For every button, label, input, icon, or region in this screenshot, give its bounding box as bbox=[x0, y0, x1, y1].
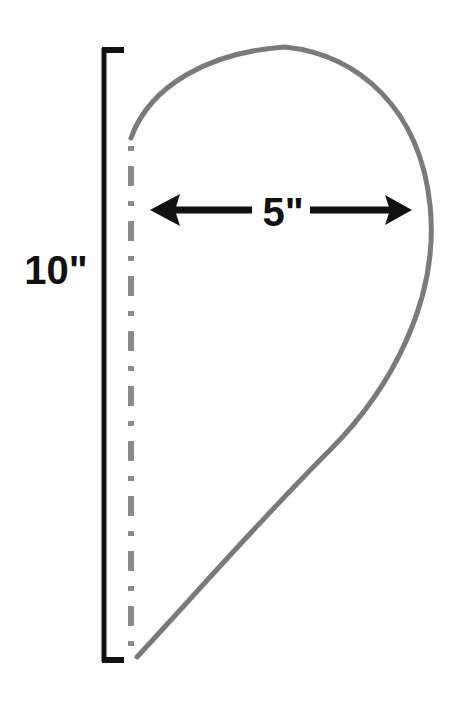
pattern-diagram: 10" 5" bbox=[0, 0, 450, 706]
height-label: 10" bbox=[24, 248, 87, 292]
height-bracket bbox=[102, 48, 124, 662]
teardrop-outline bbox=[131, 47, 431, 657]
width-label: 5" bbox=[262, 190, 303, 234]
